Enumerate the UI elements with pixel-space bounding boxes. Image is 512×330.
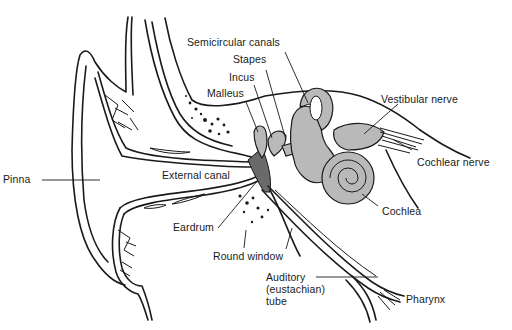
label-external-canal: External canal bbox=[162, 170, 230, 181]
label-vestibular-nerve: Vestibular nerve bbox=[381, 94, 458, 105]
label-malleus: Malleus bbox=[207, 88, 244, 99]
inner-ear bbox=[291, 88, 384, 204]
label-semicircular-canals: Semicircular canals bbox=[187, 37, 280, 48]
label-pharynx: Pharynx bbox=[406, 294, 445, 305]
label-cochlea: Cochlea bbox=[382, 206, 421, 217]
label-auditory-tube-line1: Auditory bbox=[266, 272, 305, 283]
label-stapes: Stapes bbox=[233, 54, 266, 65]
label-incus: Incus bbox=[229, 72, 255, 83]
nerve-bundle-base bbox=[334, 123, 384, 150]
label-pinna: Pinna bbox=[3, 174, 30, 185]
label-auditory-tube-line2: (eustachian) bbox=[266, 284, 325, 295]
label-eardrum: Eardrum bbox=[173, 222, 214, 233]
label-auditory-tube-line3: tube bbox=[266, 296, 287, 307]
label-round-window: Round window bbox=[213, 251, 283, 262]
label-cochlear-nerve: Cochlear nerve bbox=[417, 157, 490, 168]
auditory-nerves bbox=[378, 128, 424, 208]
